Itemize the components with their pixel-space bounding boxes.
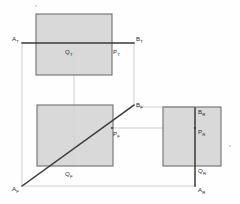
paper-speck-top [35,5,37,7]
right-view-face [163,107,221,166]
label-point-A-right: AR [198,186,206,195]
drawing-sheet: AT QT PT BT AF QF PF BF BR PR QR AR [0,0,240,204]
paper-speck-right [229,145,231,147]
label-point-Q-right: QR [198,167,206,176]
label-point-B-top: BT [136,35,143,44]
projection-drawing-canvas: AT QT PT BT AF QF PF BF BR PR QR AR [0,0,240,204]
front-view-face [37,105,113,166]
marker-point-P-front [111,127,113,129]
label-point-A-front: AF [12,185,19,194]
marker-point-P-right [194,127,196,129]
label-point-A-top: AT [12,35,19,44]
view-faces-group [36,14,221,166]
label-point-B-front: BF [136,101,143,110]
label-point-P-top: PT [113,48,120,57]
top-view-face [36,14,112,75]
label-point-Q-front: QF [65,170,73,179]
label-point-P-front: PF [113,130,120,139]
